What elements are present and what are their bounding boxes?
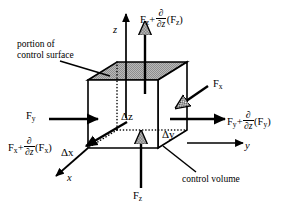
force-top-operator: +	[149, 14, 155, 25]
force-top-arg-open: (F	[167, 14, 176, 25]
frac-denominator: ∂z	[243, 120, 254, 131]
annotation-control-surface-line2: control surface	[17, 50, 74, 61]
dimension-label-delta-y: Δy	[162, 128, 175, 140]
partial-derivative-fraction-top: ∂∂z	[156, 8, 167, 29]
force-top-arg-close: )	[179, 14, 183, 25]
leader-control-surface	[60, 61, 110, 76]
force-label-upper-right-fx: Fx	[213, 78, 223, 92]
force-lower-left-operator: +	[18, 142, 24, 153]
force-label-left-fy: Fy	[26, 110, 36, 124]
force-right-operator: +	[237, 116, 243, 127]
force-right-arg-close: )	[267, 116, 271, 127]
frac-numerator: ∂	[243, 110, 254, 120]
axis-label-x: x	[67, 172, 72, 184]
annotation-control-volume: control volume	[182, 174, 240, 185]
dimension-label-delta-x: Δx	[61, 146, 74, 158]
frac-denominator: ∂z	[156, 18, 167, 29]
annotation-control-surface-line1: portion of	[17, 39, 74, 50]
force-label-lower-left-fx-plus: Fx+∂∂z(Fx)	[8, 136, 52, 157]
force-label-top-fz-plus: Fz+∂∂z(Fz)	[140, 8, 183, 29]
force-label-right-fy-plus: Fy+∂∂z(Fy)	[227, 110, 271, 131]
figure-canvas: Fz+∂∂z(Fz) Fz Fy Fy+∂∂z(Fy) Fx Fx+∂∂z(Fx…	[0, 0, 307, 218]
force-upper-right-sub: x	[219, 82, 223, 91]
force-label-bottom-fz: Fz	[133, 190, 142, 204]
axis-label-y: y	[245, 140, 250, 152]
force-lower-left-arg-close: )	[48, 142, 52, 153]
force-bottom-sub: z	[139, 194, 142, 203]
control-volume-vector-graphic	[0, 0, 307, 218]
partial-derivative-fraction-right: ∂∂z	[243, 110, 254, 131]
axis-label-z: z	[113, 24, 117, 36]
leader-control-volume	[163, 146, 196, 172]
force-left-sub: y	[32, 114, 36, 123]
frac-denominator: ∂z	[24, 146, 35, 157]
partial-derivative-fraction-lower-left: ∂∂z	[24, 136, 35, 157]
frac-numerator: ∂	[156, 8, 167, 18]
dimension-label-delta-z: Δz	[121, 110, 133, 122]
frac-numerator: ∂	[24, 136, 35, 146]
annotation-control-surface: portion of control surface	[17, 39, 74, 60]
